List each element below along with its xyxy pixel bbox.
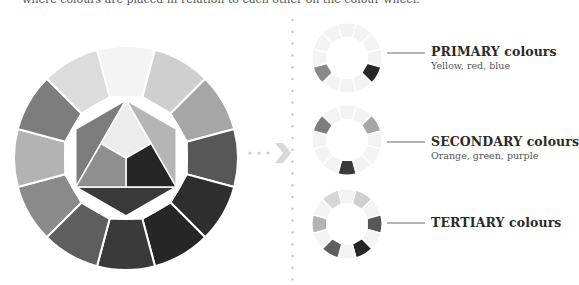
tertiary-wheel [312,189,425,259]
secondary-wheel [312,105,425,175]
tertiary-title: TERTIARY colours [431,215,561,230]
primary-subtitle: Yellow, red, blue [431,60,557,71]
primary-title: PRIMARY colours [431,44,557,59]
arrow-icon [248,143,291,163]
secondary-subtitle: Orange, green, purple [431,150,579,161]
primary-secondary-hexagon [64,96,188,220]
secondary-label: SECONDARY colours Orange, green, purple [431,134,579,161]
tertiary-label: TERTIARY colours [431,215,561,230]
primary-wheel [312,23,425,93]
small-wheels [312,23,425,259]
primary-label: PRIMARY colours Yellow, red, blue [431,44,557,71]
dotted-separator [291,19,294,281]
secondary-title: SECONDARY colours [431,134,579,149]
